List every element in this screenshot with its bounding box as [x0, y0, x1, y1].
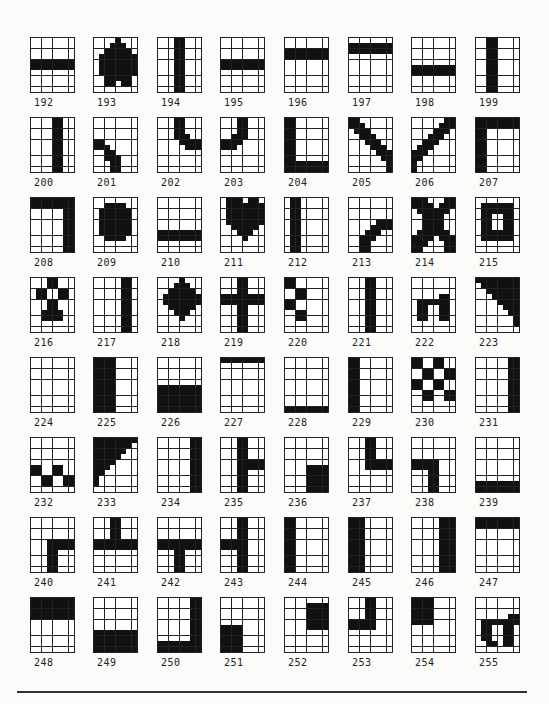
glyph-code-label: 207 [479, 177, 499, 188]
glyph-grid [93, 517, 138, 573]
glyph-code-label: 250 [161, 657, 181, 668]
glyph-grid [475, 517, 520, 573]
glyph-code-label: 231 [479, 417, 499, 428]
glyph-grid [411, 357, 456, 413]
glyph-code-label: 245 [352, 577, 372, 588]
glyph-grid [348, 357, 393, 413]
glyph-grid [157, 357, 202, 413]
glyph-code-label: 237 [352, 497, 372, 508]
glyph-cell-201: 201 [93, 117, 143, 193]
glyph-grid [30, 277, 75, 333]
glyph-code-label: 199 [479, 97, 499, 108]
glyph-cell-242: 242 [157, 517, 207, 593]
glyph-grid [220, 517, 265, 573]
glyph-cell-252: 252 [284, 597, 334, 673]
glyph-grid [93, 277, 138, 333]
glyph-code-label: 239 [479, 497, 499, 508]
glyph-grid [475, 37, 520, 93]
glyph-grid [475, 277, 520, 333]
glyph-cell-232: 232 [30, 437, 80, 513]
glyph-grid [220, 277, 265, 333]
glyph-grid [284, 597, 329, 653]
glyph-grid [30, 357, 75, 413]
glyph-grid [284, 117, 329, 173]
glyph-code-label: 205 [352, 177, 372, 188]
glyph-code-label: 232 [34, 497, 54, 508]
glyph-grid [157, 277, 202, 333]
glyph-grid [411, 597, 456, 653]
glyph-cell-241: 241 [93, 517, 143, 593]
glyph-cell-223: 223 [475, 277, 525, 353]
glyph-cell-238: 238 [411, 437, 461, 513]
glyph-grid [411, 197, 456, 253]
glyph-cell-221: 221 [348, 277, 398, 353]
glyph-grid [93, 117, 138, 173]
glyph-cell-218: 218 [157, 277, 207, 353]
glyph-code-label: 217 [97, 337, 117, 348]
glyph-cell-199: 199 [475, 37, 525, 113]
glyph-grid [284, 197, 329, 253]
glyph-code-label: 194 [161, 97, 181, 108]
glyph-code-label: 241 [97, 577, 117, 588]
glyph-grid [348, 437, 393, 493]
glyph-cell-228: 228 [284, 357, 334, 433]
glyph-code-label: 212 [288, 257, 308, 268]
glyph-code-label: 255 [479, 657, 499, 668]
glyph-code-label: 206 [415, 177, 435, 188]
glyph-cell-229: 229 [348, 357, 398, 433]
glyph-cell-246: 246 [411, 517, 461, 593]
glyph-code-label: 216 [34, 337, 54, 348]
glyph-grid [348, 277, 393, 333]
glyph-grid [475, 357, 520, 413]
glyph-cell-230: 230 [411, 357, 461, 433]
glyph-code-label: 208 [34, 257, 54, 268]
glyph-code-label: 229 [352, 417, 372, 428]
glyph-cell-222: 222 [411, 277, 461, 353]
glyph-grid [411, 277, 456, 333]
glyph-cell-250: 250 [157, 597, 207, 673]
glyph-cell-254: 254 [411, 597, 461, 673]
glyph-code-label: 247 [479, 577, 499, 588]
glyph-code-label: 251 [224, 657, 244, 668]
glyph-cell-204: 204 [284, 117, 334, 193]
glyph-cell-243: 243 [220, 517, 270, 593]
glyph-cell-205: 205 [348, 117, 398, 193]
glyph-grid [220, 357, 265, 413]
glyph-code-label: 224 [34, 417, 54, 428]
glyph-code-label: 236 [288, 497, 308, 508]
glyph-code-label: 203 [224, 177, 244, 188]
glyph-code-label: 211 [224, 257, 244, 268]
glyph-code-label: 214 [415, 257, 435, 268]
glyph-code-label: 202 [161, 177, 181, 188]
glyph-cell-208: 208 [30, 197, 80, 273]
glyph-cell-210: 210 [157, 197, 207, 273]
glyph-cell-251: 251 [220, 597, 270, 673]
glyph-cell-236: 236 [284, 437, 334, 513]
glyph-cell-212: 212 [284, 197, 334, 273]
glyph-cell-197: 197 [348, 37, 398, 113]
glyph-grid [284, 37, 329, 93]
glyph-code-label: 192 [34, 97, 54, 108]
glyph-cell-237: 237 [348, 437, 398, 513]
glyph-code-label: 249 [97, 657, 117, 668]
glyph-cell-217: 217 [93, 277, 143, 353]
glyph-cell-233: 233 [93, 437, 143, 513]
glyph-code-label: 238 [415, 497, 435, 508]
glyph-cell-215: 215 [475, 197, 525, 273]
glyph-cell-234: 234 [157, 437, 207, 513]
glyph-cell-240: 240 [30, 517, 80, 593]
glyph-grid [348, 117, 393, 173]
glyph-grid [93, 37, 138, 93]
glyph-code-label: 215 [479, 257, 499, 268]
glyph-cell-207: 207 [475, 117, 525, 193]
glyph-code-label: 225 [97, 417, 117, 428]
glyph-code-label: 254 [415, 657, 435, 668]
bottom-rule [17, 691, 527, 693]
glyph-cell-209: 209 [93, 197, 143, 273]
glyph-cell-220: 220 [284, 277, 334, 353]
glyph-cell-249: 249 [93, 597, 143, 673]
character-chart-page: 1921931941951961971981992002012022032042… [0, 0, 549, 704]
glyph-cell-198: 198 [411, 37, 461, 113]
glyph-grid [475, 197, 520, 253]
glyph-grid [220, 597, 265, 653]
